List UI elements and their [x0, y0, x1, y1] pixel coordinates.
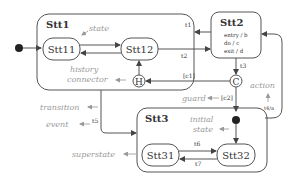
- t5-label: t5: [92, 117, 98, 124]
- stt3-label: Stt3: [145, 113, 168, 124]
- c2-label: [c2]: [221, 94, 233, 101]
- condition-label: C: [233, 77, 240, 87]
- t4-label: t4/a: [264, 105, 274, 111]
- t3-label: t3: [240, 62, 246, 69]
- stt2-label: Stt2: [220, 17, 243, 28]
- action-annotation: action: [250, 81, 275, 90]
- history-annotation: history: [70, 65, 99, 74]
- stt11-label: Stt11: [48, 44, 76, 55]
- c1-label: [c1]: [183, 72, 195, 79]
- initial-annotation: initial: [190, 115, 214, 124]
- stt12-label: Stt12: [126, 44, 154, 55]
- state-annotation: state: [89, 24, 109, 33]
- stt2-entry: entry / b: [224, 32, 248, 39]
- stt2-do: do / c: [224, 40, 239, 46]
- statechart-diagram: Stt1 Stt11 Stt12 state H history connect…: [0, 0, 296, 180]
- stt31-label: Stt31: [147, 150, 175, 161]
- transition-t5: [101, 90, 136, 133]
- superstate-annotation: superstate: [72, 150, 115, 159]
- guard-annotation: guard: [182, 94, 206, 103]
- initial-dot-stt1: [15, 44, 23, 52]
- initial-state-annotation: state: [193, 125, 213, 134]
- history-label: H: [135, 77, 143, 87]
- t6-label: t6: [194, 140, 200, 147]
- initial-dot-stt3: [232, 116, 240, 124]
- event-annotation: event: [46, 120, 69, 129]
- stt32-label: Stt32: [222, 150, 250, 161]
- t7-label: t7: [195, 160, 201, 167]
- t2-label: t2: [181, 52, 187, 59]
- t1-label: t1: [185, 21, 191, 28]
- stt1-label: Stt1: [46, 19, 69, 30]
- state-pointer: [82, 31, 88, 35]
- connector-annotation: connector: [67, 75, 109, 84]
- stt2-exit: exit / d: [224, 48, 244, 54]
- transition-annotation: transition: [40, 103, 79, 112]
